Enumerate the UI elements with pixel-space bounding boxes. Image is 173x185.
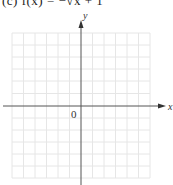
x-axis-arrow-icon <box>158 104 166 109</box>
x-axis-label: x <box>167 101 173 112</box>
x-axis <box>3 104 166 109</box>
coordinate-grid: x y 0 <box>0 0 173 185</box>
y-axis-label: y <box>82 10 88 21</box>
y-axis-arrow-icon <box>79 20 84 28</box>
origin-label: 0 <box>71 108 77 120</box>
